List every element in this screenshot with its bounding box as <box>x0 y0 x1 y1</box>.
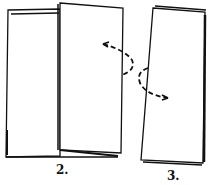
step-2-left-panel <box>6 9 60 157</box>
step-3-booklet <box>141 8 205 163</box>
step-3-figure <box>141 6 206 165</box>
step-3-label: 3. <box>167 169 180 183</box>
step-2-right-panel <box>60 3 123 153</box>
step-2-label: 2. <box>56 163 69 177</box>
step-2-figure <box>6 3 123 157</box>
folding-diagram <box>0 0 211 185</box>
